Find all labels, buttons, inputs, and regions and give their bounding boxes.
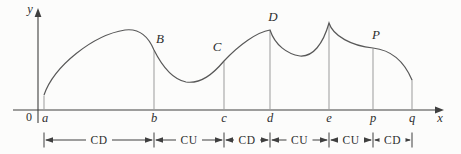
interval-label-cu-2: CU	[291, 134, 308, 146]
tick-label-c: c	[221, 111, 227, 125]
point-label-B: B	[156, 31, 164, 46]
arrow-right-icon	[320, 137, 328, 143]
interval-marker-cu-3: CU	[330, 134, 372, 147]
arrow-right-icon	[215, 137, 223, 143]
tick-label-q: q	[409, 111, 415, 125]
x-axis-label: x	[436, 111, 443, 125]
tick-label-a: a	[42, 111, 48, 125]
interval-marker-cu-1: CU	[155, 134, 223, 147]
tick-label-d: d	[267, 111, 274, 125]
function-curve	[44, 23, 412, 95]
interval-marker-cu-2: CU	[271, 134, 328, 147]
interval-label-cu-1: CU	[180, 134, 197, 146]
tick-label-b: b	[151, 111, 157, 125]
figure-canvas: y x 0 a b c d e p q B C D P CD	[0, 0, 461, 154]
y-axis-label: y	[25, 2, 33, 16]
arrow-left-icon	[225, 137, 233, 143]
interval-marker-cd-3: CD	[374, 134, 411, 147]
point-label-C: C	[213, 39, 222, 54]
arrow-left-icon	[330, 137, 338, 143]
tick-label-e: e	[326, 111, 332, 125]
arrow-left-icon	[45, 137, 53, 143]
interval-marker-cd-2: CD	[225, 134, 269, 147]
arrow-right-icon	[145, 137, 153, 143]
interval-marker-cd-1: CD	[45, 134, 153, 147]
arrow-right-icon	[261, 137, 269, 143]
y-axis-arrow-icon	[35, 8, 42, 17]
interval-label-cd-1: CD	[90, 134, 107, 146]
concavity-figure: y x 0 a b c d e p q B C D P CD	[0, 0, 461, 154]
tick-label-p: p	[369, 111, 376, 125]
point-label-P: P	[371, 27, 380, 42]
arrow-left-icon	[271, 137, 279, 143]
arrow-left-icon	[155, 137, 163, 143]
interval-label-cd-2: CD	[238, 134, 255, 146]
point-label-D: D	[267, 9, 278, 24]
arrow-right-icon	[364, 137, 372, 143]
interval-label-cd-3: CD	[384, 134, 401, 146]
origin-label: 0	[26, 110, 32, 124]
interval-label-cu-3: CU	[342, 134, 359, 146]
